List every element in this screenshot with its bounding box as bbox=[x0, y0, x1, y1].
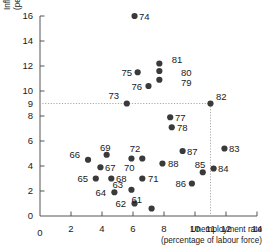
data-point-76 bbox=[145, 83, 151, 89]
x-tick-label: 4 bbox=[99, 223, 104, 234]
scatter-chart: 024689101214160246810111214 616263646566… bbox=[0, 0, 268, 250]
point-label-67: 67 bbox=[105, 162, 116, 173]
axis-titles: Unemployment rate(percentage of labour f… bbox=[3, 0, 262, 245]
point-label-83: 83 bbox=[229, 143, 240, 154]
y-tick-label: 12 bbox=[22, 60, 33, 71]
y-axis-title-line1: Inflation rate bbox=[3, 0, 12, 10]
data-point-84 bbox=[211, 165, 217, 171]
x-tick-label: 2 bbox=[68, 223, 73, 234]
point-label-87: 87 bbox=[187, 146, 198, 157]
point-label-69: 69 bbox=[100, 142, 111, 153]
data-point-78 bbox=[169, 124, 175, 130]
point-label-68: 68 bbox=[116, 173, 127, 184]
x-axis-title-line1: Unemployment rate bbox=[191, 225, 263, 234]
y-tick-label: 4 bbox=[28, 160, 33, 171]
point-label-65: 65 bbox=[77, 173, 88, 184]
point-label-74: 74 bbox=[139, 11, 150, 22]
axis-ticks bbox=[40, 16, 257, 216]
y-tick-label: 14 bbox=[22, 35, 33, 46]
point-label-61: 61 bbox=[131, 194, 142, 205]
data-point-80 bbox=[156, 68, 162, 74]
y-axis-title-line2: (percent per year) bbox=[13, 0, 22, 10]
y-tick-label: 0 bbox=[28, 210, 33, 221]
data-point-82 bbox=[207, 100, 213, 106]
x-axis-title-line2: (percentage of labour force) bbox=[161, 236, 262, 245]
point-label-86: 86 bbox=[175, 178, 186, 189]
axes bbox=[40, 16, 257, 216]
data-point-87 bbox=[180, 148, 186, 154]
point-label-81: 81 bbox=[172, 54, 183, 65]
axis-lines bbox=[40, 16, 257, 216]
data-point-65 bbox=[93, 175, 99, 181]
point-label-78: 78 bbox=[177, 122, 188, 133]
point-label-66: 66 bbox=[69, 149, 80, 160]
y-tick-label: 8 bbox=[28, 110, 33, 121]
point-label-80: 80 bbox=[181, 67, 192, 78]
data-point-71 bbox=[139, 175, 145, 181]
point-label-71: 71 bbox=[148, 173, 159, 184]
x-tick-label: 8 bbox=[161, 223, 166, 234]
data-point-88 bbox=[159, 160, 165, 166]
data-point-74 bbox=[131, 13, 137, 19]
data-point-77 bbox=[167, 114, 173, 120]
data-point-70 bbox=[128, 155, 134, 161]
data-point-75 bbox=[135, 69, 141, 75]
data-point-86 bbox=[189, 180, 195, 186]
data-point-67 bbox=[97, 164, 103, 170]
point-label-70: 70 bbox=[124, 162, 135, 173]
data-point-83 bbox=[221, 145, 227, 151]
data-point-81 bbox=[156, 60, 162, 66]
point-label-82: 82 bbox=[216, 91, 227, 102]
point-label-64: 64 bbox=[95, 187, 106, 198]
y-tick-label: 10 bbox=[22, 85, 33, 96]
y-tick-label: 6 bbox=[28, 135, 33, 146]
data-point-63 bbox=[128, 187, 134, 193]
data-point-66 bbox=[85, 157, 91, 163]
chart-canvas: 024689101214160246810111214 616263646566… bbox=[0, 0, 268, 250]
point-label-73: 73 bbox=[108, 90, 119, 101]
point-label-75: 75 bbox=[121, 67, 132, 78]
data-point-85 bbox=[200, 169, 206, 175]
data-point-79 bbox=[156, 77, 162, 83]
point-label-84: 84 bbox=[218, 163, 229, 174]
x-tick-label: 0 bbox=[37, 227, 42, 238]
point-label-88: 88 bbox=[168, 158, 179, 169]
data-point-64 bbox=[111, 189, 117, 195]
y-tick-label: 2 bbox=[28, 185, 33, 196]
data-point-61 bbox=[149, 205, 155, 211]
point-label-85: 85 bbox=[195, 159, 206, 170]
point-label-79: 79 bbox=[181, 77, 192, 88]
point-label-76: 76 bbox=[131, 81, 142, 92]
y-tick-label: 9 bbox=[28, 98, 33, 109]
axis-tick-labels: 024689101214160246810111214 bbox=[22, 10, 262, 238]
point-label-72: 72 bbox=[130, 143, 141, 154]
point-label-62: 62 bbox=[115, 198, 126, 209]
data-point-73 bbox=[124, 100, 130, 106]
data-point-72 bbox=[139, 155, 145, 161]
x-tick-label: 6 bbox=[130, 223, 135, 234]
y-tick-label: 16 bbox=[22, 10, 33, 21]
